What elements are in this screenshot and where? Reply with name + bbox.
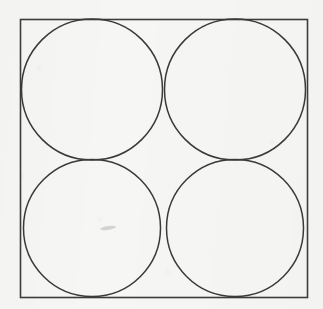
paper-background [0,0,323,309]
geometry-diagram: Four congruent circles inscribed in a sq… [0,0,323,309]
figure-canvas: Four congruent circles inscribed in a sq… [0,0,323,309]
